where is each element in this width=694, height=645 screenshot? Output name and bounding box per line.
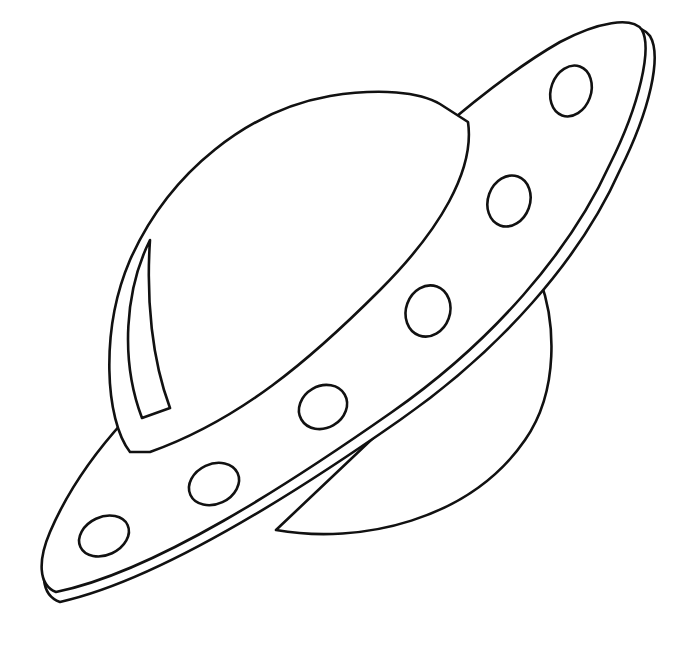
ufo-drawing: UFO flying saucer line drawing	[0, 0, 694, 645]
